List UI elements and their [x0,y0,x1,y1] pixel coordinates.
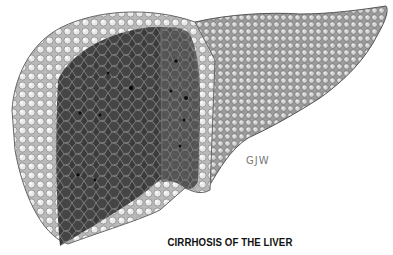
liver-cut-section-slab [160,27,200,188]
artist-signature: GJW [246,155,270,166]
liver-illustration [0,0,393,255]
figure-caption: CIRRHOSIS OF THE LIVER [156,236,303,248]
liver-right-lobe-surface [195,6,387,190]
